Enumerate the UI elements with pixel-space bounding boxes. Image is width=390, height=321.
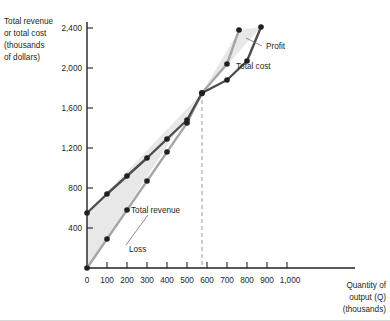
x-tick-label-200: 200 [120, 276, 134, 285]
total-revenue-annotation: Total revenue [131, 206, 181, 215]
x-tick-label-900: 900 [260, 276, 274, 285]
total-cost-annotation: Total cost [236, 62, 271, 71]
x-axis-ticks [107, 262, 287, 268]
x-tick-label-100: 100 [100, 276, 114, 285]
loss-leader-line [126, 215, 148, 245]
y-axis-title-line-3: (thousands [4, 41, 45, 50]
x-tick-label-600: 600 [200, 276, 214, 285]
y-tick-label-400: 400 [68, 224, 82, 233]
x-tick-label-0: 0 [85, 276, 90, 285]
y-tick-label-2000: 2,000 [62, 64, 83, 73]
x-axis-title-line-1: Quantity of [346, 281, 386, 290]
x-tick-label-500: 500 [180, 276, 194, 285]
x-tick-label-400: 400 [160, 276, 174, 285]
x-tick-label-300: 300 [140, 276, 154, 285]
break-even-chart: 400 800 1,200 1,600 2,000 2,400 0 100 20… [0, 0, 390, 321]
y-axis-title: Total revenue or total cost (thousands o… [4, 17, 54, 62]
x-tick-label-1000: 1,000 [280, 276, 301, 285]
loss-annotation: Loss [129, 245, 146, 254]
y-tick-label-1200: 1,200 [62, 144, 83, 153]
y-axis-title-line-4: of dollars) [4, 53, 40, 62]
profit-annotation: Profit [266, 42, 286, 51]
chart-canvas: 400 800 1,200 1,600 2,000 2,400 0 100 20… [0, 0, 390, 321]
y-tick-label-1600: 1,600 [62, 104, 83, 113]
y-axis-title-line-1: Total revenue [4, 17, 54, 26]
y-axis-ticks [87, 28, 93, 228]
x-tick-label-700: 700 [220, 276, 234, 285]
x-axis-title-line-2: output (Q) [349, 293, 386, 302]
y-tick-label-2400: 2,400 [62, 24, 83, 33]
y-tick-label-800: 800 [68, 184, 82, 193]
x-axis-title-line-3: (thousands) [343, 305, 387, 314]
x-tick-label-800: 800 [240, 276, 254, 285]
y-axis-title-line-2: or total cost [4, 29, 47, 38]
breakeven-point-marker [199, 90, 205, 96]
x-axis-title: Quantity of output (Q) (thousands) [343, 281, 387, 314]
